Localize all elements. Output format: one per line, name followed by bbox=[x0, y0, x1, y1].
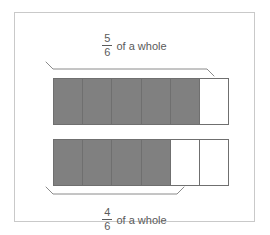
top-fraction-bar-model bbox=[53, 78, 229, 125]
top-fraction-suffix: of a whole bbox=[116, 41, 166, 52]
bottom-fraction-suffix: of a whole bbox=[116, 215, 166, 226]
bottom-brace-icon bbox=[45, 186, 185, 202]
top-segment-2 bbox=[83, 79, 112, 124]
top-fraction: 5 6 bbox=[102, 33, 112, 58]
figure-frame: 5 6 of a whole 4 bbox=[14, 12, 255, 222]
bottom-segment-4 bbox=[142, 140, 171, 185]
top-brace-icon bbox=[45, 61, 215, 77]
bottom-fraction-bar-model bbox=[53, 139, 229, 186]
bottom-segment-5 bbox=[171, 140, 200, 185]
top-fraction-denominator: 6 bbox=[103, 47, 111, 58]
bottom-fraction-label: 4 6 of a whole bbox=[15, 205, 254, 235]
bottom-segment-6 bbox=[200, 140, 228, 185]
top-segment-6 bbox=[200, 79, 228, 124]
top-segment-3 bbox=[112, 79, 141, 124]
bottom-segment-2 bbox=[83, 140, 112, 185]
top-segment-4 bbox=[142, 79, 171, 124]
bottom-segment-1 bbox=[54, 140, 83, 185]
bottom-fraction-numerator: 4 bbox=[103, 207, 111, 218]
bottom-fraction: 4 6 bbox=[102, 207, 112, 232]
top-segment-1 bbox=[54, 79, 83, 124]
top-fraction-label: 5 6 of a whole bbox=[15, 31, 254, 61]
top-segment-5 bbox=[171, 79, 200, 124]
bottom-segment-3 bbox=[112, 140, 141, 185]
top-fraction-numerator: 5 bbox=[103, 33, 111, 44]
bottom-fraction-denominator: 6 bbox=[103, 221, 111, 232]
